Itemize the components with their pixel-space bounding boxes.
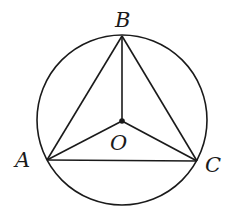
- label-c: C: [205, 153, 221, 177]
- geometry-diagram: B O A C: [0, 0, 241, 216]
- label-a: A: [13, 148, 30, 172]
- segment-ca: [47, 160, 197, 161]
- center-point-o: [119, 118, 125, 124]
- segment-bc: [122, 36, 197, 161]
- label-o: O: [110, 131, 127, 155]
- label-b: B: [114, 8, 130, 32]
